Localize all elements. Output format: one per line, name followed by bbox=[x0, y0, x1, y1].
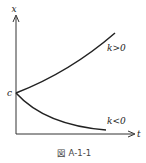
upper-curve-label: k>0 bbox=[107, 43, 126, 53]
lower-curve-label: k<0 bbox=[107, 116, 126, 126]
chart: x t c k>0 k<0 図 A-1-1 bbox=[0, 0, 146, 163]
curve-k-negative bbox=[16, 93, 106, 130]
intercept-label: c bbox=[7, 88, 12, 98]
curve-k-positive bbox=[16, 33, 115, 93]
y-axis-label: x bbox=[11, 4, 16, 14]
x-axis-label: t bbox=[137, 129, 141, 139]
figure-caption: 図 A-1-1 bbox=[57, 148, 91, 158]
